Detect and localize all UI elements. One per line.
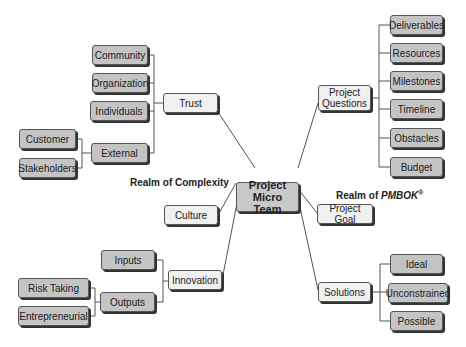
node-deliverables[interactable]: Deliverables	[390, 15, 443, 35]
pmbok-italic: PMBOK	[381, 190, 418, 201]
branch-culture[interactable]: Culture	[164, 205, 218, 225]
project-questions-line1: Project	[329, 87, 360, 98]
node-external[interactable]: External	[91, 143, 148, 163]
node-inputs[interactable]: Inputs	[101, 250, 155, 270]
node-possible[interactable]: Possible	[390, 311, 443, 331]
node-customer[interactable]: Customer	[19, 129, 76, 149]
pmbok-prefix: Realm of	[336, 190, 381, 201]
project-questions-line2: Questions	[322, 98, 367, 109]
node-resources[interactable]: Resources	[390, 43, 443, 63]
node-organization[interactable]: Organization	[92, 73, 148, 93]
node-individuals[interactable]: Individuals	[90, 101, 148, 121]
node-stakeholders[interactable]: Stakeholders	[19, 158, 76, 178]
realm-of-complexity-label: Realm of Complexity	[130, 177, 229, 188]
mind-map: Project MicroTeam Realm of Complexity Re…	[0, 0, 466, 347]
realm-of-pmbok-label: Realm of PMBOK®	[336, 189, 423, 201]
node-obstacles[interactable]: Obstacles	[390, 128, 443, 148]
center-node-line1: Project Micro	[249, 179, 286, 203]
node-entrepreneurial[interactable]: Entrepreneurial	[18, 306, 89, 326]
branch-project-questions[interactable]: ProjectQuestions	[318, 85, 371, 111]
node-risk-taking[interactable]: Risk Taking	[18, 278, 89, 298]
branch-innovation[interactable]: Innovation	[168, 270, 222, 290]
node-community[interactable]: Community	[92, 45, 148, 65]
node-ideal[interactable]: Ideal	[390, 254, 443, 274]
node-unconstrained[interactable]: Unconstrained	[388, 283, 448, 303]
branch-project-goal[interactable]: Project Goal	[317, 204, 373, 224]
branch-trust[interactable]: Trust	[163, 93, 218, 113]
node-milestones[interactable]: Milestones	[390, 71, 443, 91]
node-budget[interactable]: Budget	[390, 157, 443, 177]
node-timeline[interactable]: Timeline	[390, 99, 443, 119]
center-node-line2: Team	[254, 203, 282, 215]
pmbok-registered: ®	[418, 189, 423, 196]
node-outputs[interactable]: Outputs	[100, 292, 155, 312]
branch-solutions[interactable]: Solutions	[318, 282, 371, 302]
center-node[interactable]: Project MicroTeam	[236, 182, 299, 212]
